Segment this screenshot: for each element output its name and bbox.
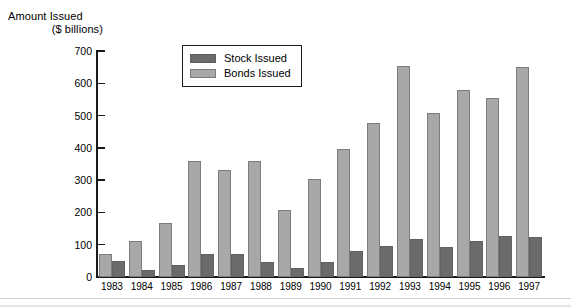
bar-bonds [486,98,499,277]
y-axis-tick-label: 600 [52,78,92,88]
y-axis-tick-label: 0 [52,272,92,282]
bar-bonds [188,161,201,277]
bar-stock [201,254,214,277]
y-axis-tick-labels: 0100200300400500600700 [48,0,92,307]
bar-stock [261,262,274,277]
bar-bonds [516,67,529,277]
bar-stock [112,261,125,277]
bar-stock [440,247,453,277]
bar-group [367,51,393,277]
legend-item-bonds: Bonds Issued [190,66,291,81]
bar-bonds [278,210,291,277]
bar-stock [470,241,483,277]
bar-group [99,51,125,277]
bar-bonds [129,241,142,277]
legend-swatch-bonds [190,69,216,78]
bar-group [397,51,423,277]
bar-stock [499,236,512,277]
bar-chart: Amount Issued ($ billions) 0100200300400… [0,0,571,307]
y-axis-tick-label: 500 [52,111,92,121]
bar-group [516,51,542,277]
bar-bonds [159,223,172,277]
bar-group [427,51,453,277]
legend-item-stock: Stock Issued [190,51,291,66]
bar-group [486,51,512,277]
bar-bonds [367,123,380,277]
bar-group [308,51,334,277]
y-axis-tick-label: 100 [52,240,92,250]
y-axis-tick-label: 200 [52,207,92,217]
bar-bonds [337,149,350,277]
y-axis-tick-label: 300 [52,175,92,185]
bar-group [457,51,483,277]
bar-stock [172,265,185,277]
bar-bonds [397,66,410,277]
legend-swatch-stock [190,54,216,63]
bar-group [337,51,363,277]
y-axis-tick-label: 700 [52,46,92,56]
bar-group [159,51,185,277]
bar-bonds [99,254,112,277]
bar-bonds [308,179,321,277]
bar-stock [321,262,334,277]
bar-stock [231,254,244,277]
legend-label-stock: Stock Issued [224,53,287,64]
bar-bonds [218,170,231,277]
y-axis-tick-label: 400 [52,143,92,153]
bar-stock [380,246,393,277]
bar-stock [410,239,423,277]
legend-label-bonds: Bonds Issued [224,68,291,79]
bar-stock [142,270,155,277]
chart-legend: Stock Issued Bonds Issued [182,45,302,87]
plot-area [97,51,544,277]
bar-bonds [248,161,261,277]
bar-stock [529,237,542,277]
footer-divider-upper [0,298,571,299]
bar-bonds [427,113,440,277]
bar-bonds [457,90,470,277]
x-axis-tick-label: 1997 [509,281,549,292]
bar-stock [291,268,304,277]
bar-group [129,51,155,277]
bar-stock [350,251,363,277]
